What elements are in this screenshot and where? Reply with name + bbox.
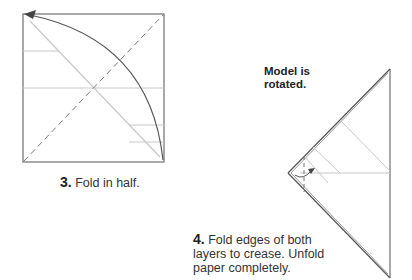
step-4-caption: 4. Fold edges of both layers to crease. …: [193, 232, 343, 275]
step-3-text: Fold in half.: [75, 176, 140, 190]
rotation-note: Model is rotated.: [264, 65, 326, 91]
step-4-text: Fold edges of both layers to crease. Unf…: [193, 233, 324, 275]
step-3-square: [23, 10, 164, 162]
step-3-number: 3.: [60, 174, 72, 190]
step-3-caption: 3. Fold in half.: [60, 175, 140, 190]
step-4-number: 4.: [193, 231, 205, 247]
